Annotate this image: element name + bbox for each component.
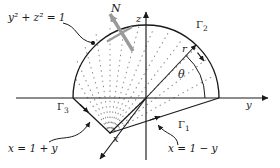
label-normal-N: N [111, 3, 121, 14]
gamma-3-symbol: Γ [57, 101, 64, 112]
label-axis-y: y [246, 100, 252, 110]
gamma-3-direction-arrow [80, 105, 89, 113]
leader-line-left [49, 122, 90, 142]
label-circle-equation: y² + z² = 1 [8, 12, 66, 23]
label-line-left: x = 1 + y [8, 143, 57, 154]
label-axis-x: x [113, 134, 119, 144]
label-radius-r: r [182, 44, 187, 54]
gamma-2-subscript: 2 [203, 24, 208, 33]
label-gamma-2: Γ2 [196, 20, 208, 33]
gamma-1-subscript: 1 [185, 124, 190, 133]
curve-gamma-3 [73, 98, 110, 133]
radius-segment [146, 45, 196, 98]
gamma-2-direction-arrow [198, 53, 205, 61]
gamma-1-direction-arrow [150, 117, 160, 121]
leader-circle-equation [63, 23, 93, 43]
label-angle-theta: θ [178, 69, 185, 80]
label-gamma-1: Γ1 [178, 120, 190, 133]
gamma-2-symbol: Γ [196, 19, 203, 30]
label-axis-z: z [136, 14, 141, 24]
label-line-right: x = 1 − y [168, 143, 217, 154]
gamma-3-subscript: 3 [64, 106, 69, 115]
label-gamma-3: Γ3 [57, 102, 69, 115]
gamma-1-symbol: Γ [178, 119, 185, 130]
angle-theta-arc [186, 56, 205, 99]
